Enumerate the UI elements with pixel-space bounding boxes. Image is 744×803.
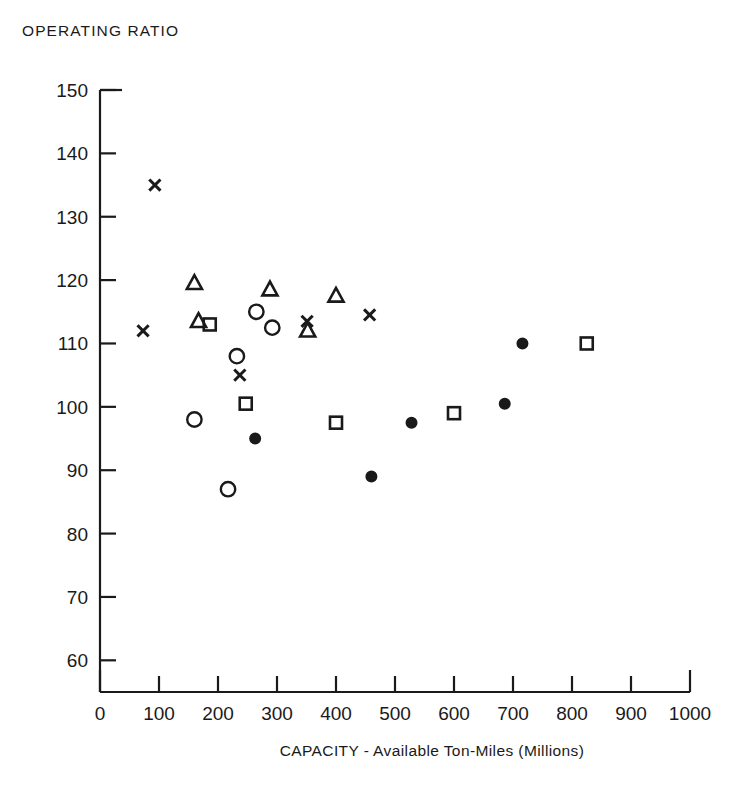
plot-layer: 6070809010011012013014015001002003004005… — [56, 80, 711, 724]
data-point-x — [137, 325, 148, 336]
data-point-square — [330, 417, 342, 429]
y-axis-tick-label: 140 — [56, 143, 88, 164]
series-open-square — [204, 318, 593, 428]
x-axis-tick-label: 900 — [615, 703, 647, 724]
data-point-circle — [187, 412, 201, 426]
y-axis-tick-label: 80 — [67, 524, 88, 545]
data-point-circle-filled — [366, 471, 376, 481]
triangle-marker — [262, 282, 277, 296]
y-axis-tick-label: 60 — [67, 650, 88, 671]
x-axis-tick-label: 200 — [202, 703, 234, 724]
data-point-circle-filled — [500, 398, 510, 408]
circle-marker — [230, 349, 244, 363]
data-point-circle-filled — [250, 433, 260, 443]
x-axis-tick-label: 700 — [497, 703, 529, 724]
x-axis-tick-label: 1000 — [669, 703, 711, 724]
triangle-marker — [187, 275, 202, 289]
square-marker — [581, 337, 593, 349]
data-point-circle-filled — [406, 417, 416, 427]
square-marker — [240, 398, 252, 410]
data-point-x — [149, 179, 160, 190]
data-point-x — [364, 309, 375, 320]
data-point-x — [234, 370, 245, 381]
circle-marker — [250, 433, 260, 443]
x-axis-tick-label: 400 — [320, 703, 352, 724]
x-axis-tick-label: 100 — [143, 703, 175, 724]
square-marker — [448, 407, 460, 419]
series-x-marker — [137, 179, 375, 380]
y-axis-tick-label: 130 — [56, 207, 88, 228]
series-filled-circle — [250, 338, 528, 481]
data-point-triangle — [262, 282, 277, 296]
circle-marker — [249, 305, 263, 319]
x-axis-tick-label: 800 — [556, 703, 588, 724]
data-point-square — [448, 407, 460, 419]
circle-marker — [221, 482, 235, 496]
x-axis-tick-label: 300 — [261, 703, 293, 724]
circle-marker — [366, 471, 376, 481]
x-axis-tick-label: 600 — [438, 703, 470, 724]
chart-canvas: 6070809010011012013014015001002003004005… — [0, 0, 744, 803]
data-point-square — [581, 337, 593, 349]
data-point-triangle — [187, 275, 202, 289]
data-point-circle — [265, 320, 279, 334]
series-open-circle — [187, 305, 279, 497]
data-point-circle-filled — [517, 338, 527, 348]
y-axis-tick-label: 90 — [67, 460, 88, 481]
circle-marker — [406, 417, 416, 427]
triangle-marker — [328, 288, 343, 302]
scatter-chart: OPERATING RATIO 607080901001101201301401… — [0, 0, 744, 803]
data-point-circle — [221, 482, 235, 496]
y-axis-tick-label: 100 — [56, 397, 88, 418]
circle-marker — [517, 338, 527, 348]
y-axis-tick-label: 70 — [67, 587, 88, 608]
x-axis-label: CAPACITY - Available Ton-Miles (Millions… — [0, 742, 744, 760]
y-axis-tick-label: 120 — [56, 270, 88, 291]
circle-marker — [265, 320, 279, 334]
data-point-square — [240, 398, 252, 410]
y-axis-tick-label: 110 — [58, 333, 88, 354]
square-marker — [330, 417, 342, 429]
x-axis-tick-label: 500 — [379, 703, 411, 724]
circle-marker — [187, 412, 201, 426]
circle-marker — [500, 398, 510, 408]
data-point-circle — [230, 349, 244, 363]
data-point-triangle — [328, 288, 343, 302]
x-axis-tick-label: 0 — [95, 703, 106, 724]
y-axis-tick-label: 150 — [56, 80, 88, 101]
data-point-circle — [249, 305, 263, 319]
